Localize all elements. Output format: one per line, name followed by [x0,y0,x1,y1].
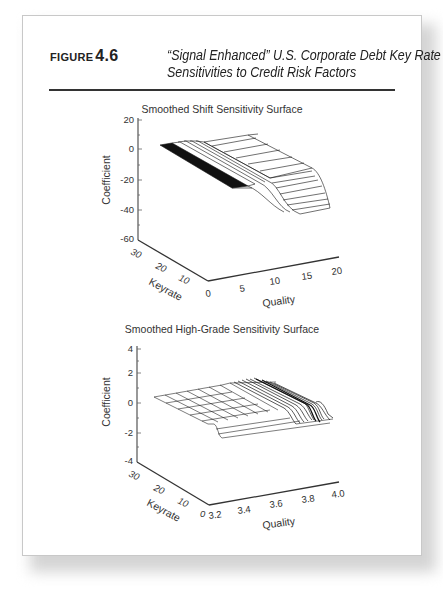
chart2-surface [154,378,333,438]
chart2-ztick: -4 [125,455,133,466]
chart2-xtick: 3.4 [237,503,252,516]
chart1-xtick: 5 [239,282,246,294]
chart2-ylabel: Keyrate [145,496,183,524]
chart1-ztick: -60 [120,233,134,244]
chart1-xtick: 0 [205,287,212,299]
chart2-xlabel: Quality [262,514,297,531]
chart2-title: Smoothed High-Grade Sensitivity Surface [125,323,320,335]
chart1-xtick: 20 [331,265,343,277]
chart1-zlabel: Coefficient [100,155,112,205]
chart2-ztick: 2 [128,367,133,378]
chart-high-grade-surface: Smoothed High-Grade Sensitivity Surface … [100,323,345,531]
chart1-title: Smoothed Shift Sensitivity Surface [141,103,302,115]
chart2-ztick: 4 [128,343,133,354]
chart1-ytick: 20 [153,259,169,274]
chart1-xlabel: Quality [262,292,297,309]
chart1-xtick: 15 [301,270,313,282]
chart2-xtick: 4.0 [331,487,346,500]
chart2-zlabel: Coefficient [100,377,112,427]
chart2-xtick: 3.2 [208,508,223,521]
chart2-ytick: 0 [200,508,206,519]
chart2-ztick: 0 [128,397,133,408]
chart1-ztick: 0 [129,143,134,154]
chart1-xtick: 10 [269,275,281,287]
chart1-ztick: 20 [123,114,134,125]
chart2-ztick: -2 [125,427,133,438]
chart2-ytick: 30 [127,468,142,483]
chart1-ztick: -20 [120,174,134,185]
chart2-ytick: 20 [151,481,167,496]
chart2-z-ticks [137,349,141,447]
chart2-xtick: 3.6 [269,497,284,510]
chart1-ytick: 10 [177,272,192,287]
chart1-z-ticks [138,120,142,225]
chart1-ztick: -40 [120,204,134,215]
chart1-surface [160,134,330,214]
chart2-ytick: 10 [176,495,191,510]
charts-svg: Smoothed Shift Sensitivity Surface 20 0 … [0,0,443,593]
chart1-ytick: 30 [129,246,144,261]
chart-shift-surface: Smoothed Shift Sensitivity Surface 20 0 … [100,103,343,309]
chart2-xtick: 3.8 [301,492,316,505]
